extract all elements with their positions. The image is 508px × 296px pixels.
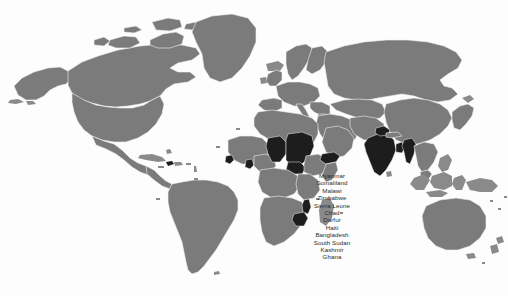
country-south-america-main	[168, 180, 238, 274]
island-pacific-a	[490, 200, 493, 202]
island-new-guinea	[466, 178, 498, 192]
island-iceland	[266, 61, 284, 71]
island-aleutians-b	[26, 101, 36, 105]
country-canada	[68, 44, 200, 107]
island-pacific-c	[482, 262, 485, 264]
country-label-somaliland: Somaliland	[296, 179, 368, 186]
country-russia	[324, 40, 462, 102]
island-jamaica	[158, 166, 164, 168]
island-cape-verde	[216, 146, 220, 148]
country-haiti	[166, 161, 174, 166]
country-somaliland	[320, 152, 340, 164]
island-new-zealand-n	[496, 236, 504, 244]
country-thailand-indochina	[414, 142, 438, 172]
region-south-america	[156, 178, 238, 275]
island-tasmania	[466, 253, 476, 259]
island-japan-north	[462, 95, 474, 103]
country-sierra-leone	[225, 155, 234, 164]
highlighted-country-label-list: Myanmar Somaliland Malawi Zimbabwe Sierr…	[296, 172, 368, 261]
country-label-chad: Chad	[296, 209, 368, 216]
island-cuba	[138, 154, 166, 162]
world-map-figure: Myanmar Somaliland Malawi Zimbabwe Sierr…	[0, 0, 508, 296]
country-korea-japan	[452, 104, 474, 130]
island-pacific-b	[498, 208, 501, 210]
island-lesser-antilles	[194, 166, 197, 172]
island-sri-lanka	[386, 171, 392, 177]
country-label-darfur: Darfur	[296, 216, 368, 223]
island-falklands	[214, 271, 220, 275]
country-label-malawi: Malawi	[296, 187, 368, 194]
country-alaska	[14, 67, 72, 100]
island-bahamas	[166, 149, 172, 154]
country-ghana	[245, 159, 254, 169]
country-iberia	[258, 98, 282, 112]
country-label-myanmar: Myanmar	[296, 172, 368, 179]
country-label-sierra-leone: Sierra Leone	[296, 202, 368, 209]
island-java	[426, 190, 448, 197]
island-philippines	[438, 154, 452, 172]
country-greenland	[192, 14, 256, 82]
island-puerto-rico	[186, 163, 191, 165]
island-aleutians-a	[8, 99, 24, 104]
country-label-haiti: Haiti	[296, 224, 368, 231]
world-map-svg	[0, 0, 508, 296]
country-label-south-sudan: South Sudan	[296, 239, 368, 246]
island-victoria	[108, 36, 140, 48]
country-label-zimbabwe: Zimbabwe	[296, 194, 368, 201]
island-dominican-republic	[174, 162, 183, 166]
island-sulawesi	[452, 175, 466, 190]
island-new-zealand-s	[490, 244, 499, 254]
island-borneo	[430, 172, 452, 190]
country-australia	[422, 198, 486, 250]
country-british-isles	[266, 70, 282, 86]
island-ellesmere	[152, 18, 182, 31]
island-banks	[94, 37, 110, 46]
island-trinidad	[194, 178, 198, 180]
country-label-ghana: Ghana	[296, 253, 368, 260]
country-myanmar	[402, 138, 416, 164]
island-galapagos	[156, 198, 160, 200]
island-ireland	[260, 77, 267, 84]
country-india	[364, 134, 396, 176]
island-canary	[236, 128, 240, 130]
island-pacific-d	[504, 196, 507, 198]
island-arctic-small-a	[124, 26, 142, 33]
country-central-america	[146, 166, 172, 189]
country-label-bangladesh: Bangladesh	[296, 231, 368, 238]
country-label-kashmir: Kashmir	[296, 246, 368, 253]
